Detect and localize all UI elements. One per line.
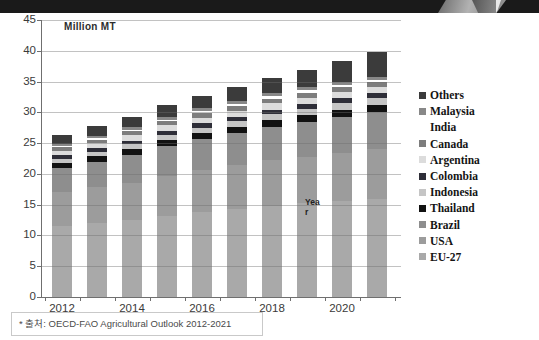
- legend-label: Thailand: [430, 202, 475, 214]
- bar-segment-others: [297, 70, 317, 88]
- bar-segment-brazil: [192, 139, 212, 170]
- bar-segment-usa: [122, 183, 142, 221]
- bar-2019: [297, 69, 317, 297]
- bar-segment-usa: [157, 176, 177, 216]
- legend-item-india: India: [419, 119, 537, 135]
- bar-segment-thailand: [367, 105, 387, 112]
- bar-2014: [122, 117, 142, 297]
- y-axis-label: 30: [0, 105, 36, 117]
- x-axis-title-line1: Yea: [305, 197, 329, 207]
- stacked-bar-chart: Million MT Yea r OthersMalaysiaIndiaCana…: [0, 13, 539, 340]
- x-axis-title-line2: r: [305, 207, 329, 217]
- bar-2012: [52, 135, 72, 297]
- legend-item-canada: Canada: [419, 136, 537, 152]
- bar-segment-others: [262, 78, 282, 93]
- y-axis-label: 35: [0, 75, 36, 87]
- bar-segment-brazil: [332, 117, 352, 153]
- x-axis-label: 2020: [320, 302, 364, 314]
- bar-segment-usa: [87, 187, 107, 223]
- bar-segment-eu-27: [262, 206, 282, 297]
- bar-2017: [227, 87, 247, 297]
- x-axis-tick: [395, 297, 396, 301]
- legend-label: Others: [430, 89, 464, 101]
- legend-swatch-icon: [419, 221, 426, 228]
- bar-segment-others: [332, 61, 352, 81]
- bar-segment-usa: [192, 170, 212, 212]
- bar-segment-usa: [367, 149, 387, 198]
- bar-segment-brazil: [157, 146, 177, 176]
- legend-item-colombia: Colombia: [419, 168, 537, 184]
- x-axis-tick: [150, 297, 151, 301]
- x-axis-tick: [80, 297, 81, 301]
- legend-swatch-icon: [419, 205, 426, 212]
- legend-item-usa: USA: [419, 233, 537, 249]
- bar-segment-brazil: [297, 122, 317, 156]
- legend-swatch-icon: [419, 189, 426, 196]
- bar-segment-thailand: [262, 120, 282, 127]
- bar-2021: [367, 52, 387, 297]
- y-axis-line: [41, 20, 42, 297]
- x-axis-title: Yea r: [305, 197, 329, 217]
- bar-segment-others: [227, 87, 247, 101]
- legend-swatch-icon: [419, 156, 426, 163]
- bar-segment-brazil: [367, 112, 387, 149]
- y-axis-label: 40: [0, 44, 36, 56]
- bar-segment-usa: [262, 160, 282, 206]
- bar-segment-brazil: [52, 168, 72, 193]
- bar-segment-thailand: [332, 110, 352, 117]
- legend-item-brazil: Brazil: [419, 217, 537, 233]
- y-axis-label: 20: [0, 167, 36, 179]
- legend-swatch-icon: [419, 92, 426, 99]
- slide: Million MT Yea r OthersMalaysiaIndiaCana…: [0, 0, 539, 340]
- legend-item-others: Others: [419, 87, 537, 103]
- legend-label: Argentina: [430, 154, 480, 166]
- legend-item-malaysia: Malaysia: [419, 103, 537, 119]
- y-axis-label: 5: [0, 259, 36, 271]
- legend-swatch-icon: [419, 237, 426, 244]
- bar-segment-indonesia: [332, 103, 352, 110]
- bar-2018: [262, 78, 282, 297]
- bar-2015: [157, 105, 177, 297]
- legend-label: Colombia: [430, 170, 478, 182]
- legend-label: Indonesia: [430, 186, 478, 198]
- bar-2016: [192, 96, 212, 297]
- legend-item-argentina: Argentina: [419, 152, 537, 168]
- bar-segment-brazil: [262, 127, 282, 160]
- top-band: [0, 0, 539, 13]
- x-axis-tick: [45, 297, 46, 301]
- bar-segment-brazil: [122, 155, 142, 183]
- y-axis-label: 45: [0, 13, 36, 25]
- gridline-40: [41, 51, 401, 52]
- legend-swatch-icon: [419, 124, 426, 131]
- x-axis-line: [41, 297, 401, 298]
- bar-segment-others: [367, 52, 387, 77]
- bar-segment-usa: [332, 153, 352, 201]
- x-axis-tick: [220, 297, 221, 301]
- x-axis-tick: [290, 297, 291, 301]
- chart-legend: OthersMalaysiaIndiaCanadaArgentinaColomb…: [419, 87, 537, 265]
- x-axis-tick: [115, 297, 116, 301]
- y-axis-label: 25: [0, 136, 36, 148]
- legend-item-thailand: Thailand: [419, 200, 537, 216]
- legend-label: Malaysia: [430, 105, 475, 117]
- legend-label: India: [430, 121, 456, 133]
- x-axis-tick: [360, 297, 361, 301]
- bar-segment-eu-27: [192, 212, 212, 297]
- bar-segment-eu-27: [332, 201, 352, 297]
- bar-segment-others: [157, 105, 177, 117]
- legend-swatch-icon: [419, 253, 426, 260]
- bar-segment-others: [52, 135, 72, 144]
- chart-unit-label: Million MT: [64, 21, 116, 32]
- y-axis-label: 10: [0, 228, 36, 240]
- bar-segment-usa: [52, 192, 72, 226]
- legend-label: Canada: [430, 138, 468, 150]
- bar-segment-eu-27: [367, 199, 387, 297]
- bar-segment-eu-27: [52, 226, 72, 297]
- legend-label: EU-27: [430, 251, 461, 263]
- bar-segment-eu-27: [227, 209, 247, 297]
- bar-segment-usa: [227, 165, 247, 209]
- y-axis-label: 15: [0, 198, 36, 210]
- legend-item-indonesia: Indonesia: [419, 184, 537, 200]
- bar-2020: [332, 61, 352, 297]
- source-footnote: * 출처: OECD-FAO Agricultural Outlook 2012…: [11, 312, 263, 336]
